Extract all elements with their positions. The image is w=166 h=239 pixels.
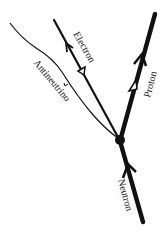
feynman-diagram: Electron Antineutrino Proton Neutron [0,0,166,239]
proton-open-arrow-icon [129,80,137,91]
vertex-dot [115,135,125,145]
electron-open-arrow-icon [78,67,85,75]
antineutrino-label: Antineutrino [31,57,72,103]
proton-label: Proton [141,70,159,99]
